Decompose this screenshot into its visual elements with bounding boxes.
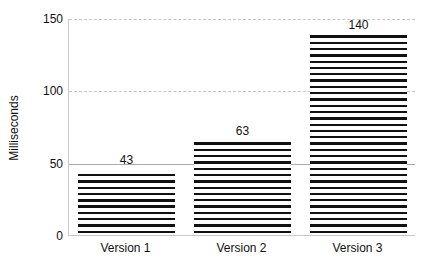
bar-version-1 (78, 171, 175, 233)
x-tick-version-3: Version 3 (309, 241, 406, 255)
y-tick-100: 100 (23, 85, 63, 97)
plot-area: 43 63 140 (68, 19, 415, 236)
x-tick-version-1: Version 1 (77, 241, 174, 255)
y-tick-50: 50 (23, 158, 63, 170)
y-tick-150: 150 (23, 13, 63, 25)
data-label-version-3: 140 (310, 19, 407, 31)
x-tick-version-2: Version 2 (193, 241, 290, 255)
y-axis-label: Milliseconds (7, 95, 21, 160)
y-tick-0: 0 (23, 230, 63, 242)
data-label-version-1: 43 (78, 154, 175, 166)
bar-version-2 (194, 142, 291, 233)
bar-version-3 (310, 31, 407, 233)
data-label-version-2: 63 (194, 125, 291, 137)
